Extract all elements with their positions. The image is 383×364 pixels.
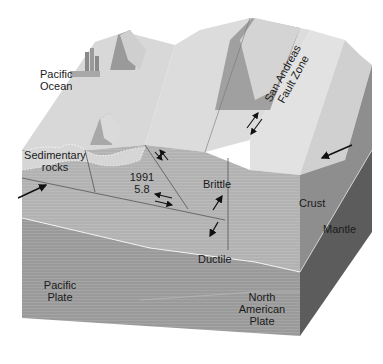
label-earthquake-1991: 1991 5.8: [127, 171, 157, 195]
label-crust: Crust: [299, 197, 325, 209]
label-pacific-plate: Pacific Plate: [38, 279, 82, 303]
label-ductile: Ductile: [198, 253, 232, 265]
label-north-american-plate: North American Plate: [235, 291, 289, 327]
fault-block-diagram: [0, 0, 383, 364]
pier-icon: [70, 71, 100, 77]
label-pacific-ocean: Pacific Ocean: [40, 68, 72, 92]
label-brittle: Brittle: [203, 178, 231, 190]
label-sedimentary-rocks: Sedimentary rocks: [22, 149, 88, 173]
label-mantle: Mantle: [323, 223, 356, 235]
